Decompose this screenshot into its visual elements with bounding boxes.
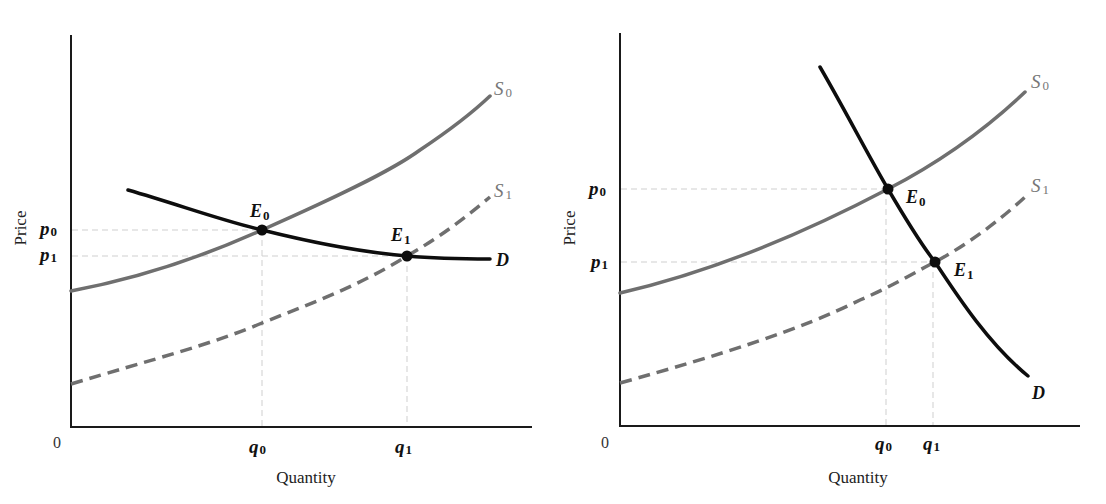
e0-label: E0 [249, 201, 270, 223]
equilibrium-point-e1 [402, 251, 413, 262]
demand-curve-d [128, 190, 490, 259]
e1-label: E1 [390, 225, 411, 247]
s0-label: S0 [1031, 71, 1049, 93]
s1-label: S1 [494, 180, 512, 202]
q0-tick-label: q0 [249, 436, 266, 457]
q1-tick-label: q1 [923, 433, 940, 454]
q1-tick-label: q1 [395, 436, 412, 457]
supply-demand-figure: E0 E1 S0 S1 D p0 p1 q0 q1 0 Price Qua [0, 0, 1106, 504]
s1-label: S1 [1031, 175, 1049, 197]
origin-label: 0 [53, 434, 61, 451]
s0-label: S0 [494, 78, 512, 100]
e1-label: E1 [953, 260, 974, 282]
d-label: D [495, 250, 509, 270]
equilibrium-point-e0 [257, 225, 268, 236]
x-axis-title: Quantity [828, 468, 888, 487]
left-panel: E0 E1 S0 S1 D p0 p1 q0 q1 0 Price Qua [11, 35, 532, 487]
equilibrium-point-e0 [883, 184, 894, 195]
p0-tick-label: p0 [38, 218, 57, 239]
x-axis-title: Quantity [276, 468, 336, 487]
y-axis-title: Price [560, 211, 579, 246]
p1-tick-label: p1 [38, 244, 57, 265]
supply-curve-s1 [71, 197, 490, 384]
supply-curve-s1 [620, 197, 1025, 383]
right-panel: E0 E1 S0 S1 D p0 p1 q0 q1 0 Price Qua [560, 33, 1080, 487]
q0-tick-label: q0 [875, 433, 892, 454]
d-label: D [1031, 383, 1045, 403]
origin-label: 0 [601, 434, 609, 451]
p0-tick-label: p0 [587, 178, 606, 199]
equilibrium-point-e1 [930, 257, 941, 268]
demand-curve-d [820, 67, 1028, 376]
y-axis-title: Price [11, 211, 30, 246]
e0-label: E0 [905, 187, 926, 209]
p1-tick-label: p1 [589, 251, 608, 272]
